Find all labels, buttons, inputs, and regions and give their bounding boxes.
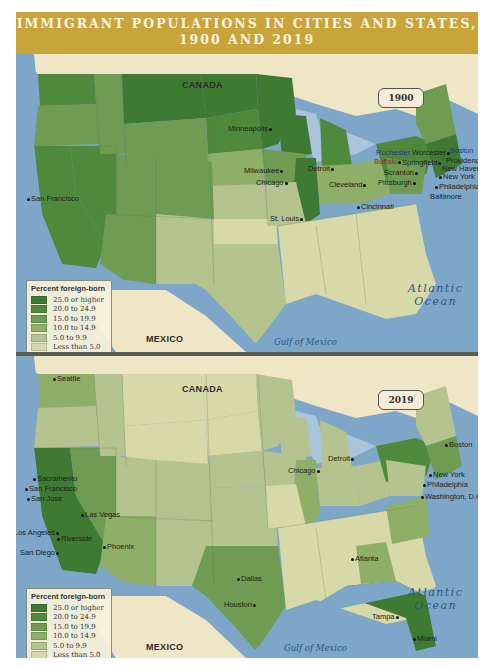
city-label: Boston bbox=[450, 146, 473, 155]
city-label: Phoenix bbox=[102, 542, 134, 551]
city-dot bbox=[280, 170, 283, 173]
legend-item: 20.0 to 24.9 bbox=[31, 613, 107, 623]
city-label: Chicago bbox=[256, 178, 289, 187]
city-label: Detroit bbox=[328, 454, 355, 463]
city-label: Minneapolis bbox=[228, 124, 273, 133]
city-dot bbox=[438, 162, 441, 165]
city-label: Milwaukee bbox=[244, 166, 284, 175]
legend-item: 15.0 to 19.9 bbox=[31, 314, 107, 324]
legend-swatch bbox=[31, 604, 47, 612]
city-dot bbox=[421, 496, 424, 499]
legend-item: 20.0 to 24.9 bbox=[31, 305, 107, 315]
label-mexico: MEXICO bbox=[146, 642, 183, 652]
legend-2019: Percent foreign-born 25.0 or higher 20.0… bbox=[26, 588, 112, 658]
city-label: Cleveland bbox=[329, 180, 367, 189]
legend-item: 10.0 to 14.9 bbox=[31, 632, 107, 642]
legend-item: 15.0 to 19.9 bbox=[31, 622, 107, 632]
city-dot bbox=[351, 558, 354, 561]
city-label: San Francisco bbox=[26, 194, 79, 203]
legend-item: Less than 5.0 bbox=[31, 651, 107, 659]
city-label: Baltimore bbox=[430, 192, 462, 201]
city-label: Tampa bbox=[372, 612, 400, 621]
label-gulf-of-mexico: Gulf of Mexico bbox=[284, 642, 347, 655]
city-dot bbox=[25, 488, 28, 491]
year-label-2019: 2019 bbox=[378, 390, 424, 410]
map-figure: IMMIGRANT POPULATIONS IN CITIES AND STAT… bbox=[16, 12, 478, 658]
city-dot bbox=[398, 161, 401, 164]
city-label: St. Louis bbox=[270, 214, 304, 223]
city-dot bbox=[413, 182, 416, 185]
city-dot bbox=[435, 186, 438, 189]
legend-item: 5.0 to 9.9 bbox=[31, 333, 107, 343]
legend-item: 10.0 to 14.9 bbox=[31, 324, 107, 334]
label-canada: CANADA bbox=[182, 384, 223, 394]
city-dot bbox=[300, 218, 303, 221]
city-label: Washington, D.C. bbox=[420, 492, 478, 501]
city-label: Chicago bbox=[288, 466, 321, 475]
city-dot bbox=[237, 578, 240, 581]
title-line-1: IMMIGRANT POPULATIONS IN CITIES AND STAT… bbox=[16, 16, 478, 32]
city-dot bbox=[269, 128, 272, 131]
legend-item: 25.0 or higher bbox=[31, 603, 107, 613]
legend-item: 25.0 or higher bbox=[31, 295, 107, 305]
city-label: Dallas bbox=[236, 574, 262, 583]
label-mexico: MEXICO bbox=[146, 334, 183, 344]
city-dot bbox=[53, 378, 56, 381]
legend-swatch bbox=[31, 613, 47, 621]
legend-swatch bbox=[31, 315, 47, 323]
city-label: Boston bbox=[444, 440, 472, 449]
legend-item: Less than 5.0 bbox=[31, 343, 107, 353]
label-gulf-of-mexico: Gulf of Mexico bbox=[274, 336, 337, 349]
city-dot bbox=[423, 484, 426, 487]
legend-item: 5.0 to 9.9 bbox=[31, 641, 107, 651]
legend-swatch bbox=[31, 334, 47, 342]
legend-swatch bbox=[31, 305, 47, 313]
city-label: Pittsburgh bbox=[378, 178, 417, 187]
city-label: Riverside bbox=[56, 534, 92, 543]
city-label: San Jose bbox=[26, 494, 62, 503]
city-dot bbox=[317, 470, 320, 473]
city-label: Seattle bbox=[52, 374, 80, 383]
legend-swatch bbox=[31, 343, 47, 351]
legend-swatch bbox=[31, 296, 47, 304]
legend-swatch bbox=[31, 623, 47, 631]
legend-swatch bbox=[31, 632, 47, 640]
city-dot bbox=[253, 604, 256, 607]
city-label: Springfield bbox=[402, 158, 442, 167]
city-dot bbox=[27, 198, 30, 201]
city-dot bbox=[57, 538, 60, 541]
city-label: Detroit bbox=[308, 164, 335, 173]
city-dot bbox=[415, 172, 418, 175]
city-label: Philadelphia bbox=[434, 182, 478, 191]
label-canada: CANADA bbox=[182, 80, 223, 90]
city-dot bbox=[27, 498, 30, 501]
city-label: Rochester bbox=[376, 148, 410, 157]
legend-1900: Percent foreign-born 25.0 or higher 20.0… bbox=[26, 280, 112, 352]
city-dot bbox=[413, 638, 416, 641]
city-label: San Francisco bbox=[24, 484, 77, 493]
title-line-2: 1900 AND 2019 bbox=[16, 32, 478, 48]
legend-title: Percent foreign-born bbox=[31, 592, 107, 601]
city-label: Houston bbox=[224, 600, 257, 609]
legend-swatch bbox=[31, 642, 47, 650]
year-label-1900: 1900 bbox=[378, 88, 424, 108]
city-dot bbox=[429, 474, 432, 477]
city-label: San Diego bbox=[20, 548, 60, 557]
city-label: Las Vegas bbox=[80, 510, 120, 519]
city-label: Cincinnati bbox=[356, 202, 394, 211]
city-dot bbox=[351, 458, 354, 461]
city-dot bbox=[81, 514, 84, 517]
legend-swatch bbox=[31, 324, 47, 332]
city-dot bbox=[445, 444, 448, 447]
city-label: Los Angeles bbox=[16, 528, 60, 537]
city-dot bbox=[56, 552, 59, 555]
city-dot bbox=[103, 546, 106, 549]
map-1900: CANADA MEXICO Atlantic Ocean Gulf of Mex… bbox=[16, 54, 478, 352]
city-label: Philadelphia bbox=[422, 480, 468, 489]
label-atlantic-ocean: Atlantic Ocean bbox=[408, 282, 463, 308]
city-dot bbox=[285, 182, 288, 185]
city-dot bbox=[363, 184, 366, 187]
city-label: Scranton bbox=[384, 168, 419, 177]
figure-title: IMMIGRANT POPULATIONS IN CITIES AND STAT… bbox=[16, 12, 478, 54]
legend-title: Percent foreign-born bbox=[31, 284, 107, 293]
